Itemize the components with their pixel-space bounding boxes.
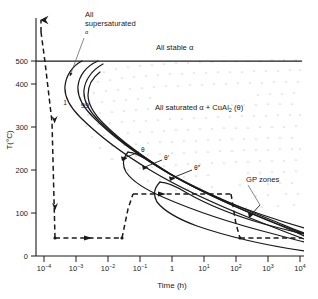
all-supersaturated-line3: α [85,29,89,35]
quench-arrowhead-mid [52,116,58,124]
y-tick-label-400: 400 [15,80,28,89]
ttt-plot-svg: 0 100 200 300 400 500 10−4 10−3 10−2 10−… [0,0,318,299]
x-tick-label-1e3: 103 [262,263,273,273]
c-curves-group [65,61,304,251]
theta-dprime-label: θ″ [194,164,201,171]
x-axis-ticks [44,256,300,262]
x-tick-label-1: 1 [170,264,174,273]
x-tick-label-1e-4: 10−4 [37,263,51,273]
x-tick-label-1e1: 101 [198,263,209,273]
y-tick-label-100: 100 [15,209,28,218]
all-supersaturated-line1: All [85,10,94,19]
x-tick-label-1e2: 102 [230,263,241,273]
annotation-theta-double-prime: θ″ [169,164,201,181]
heat-treatment-path-group [41,20,302,241]
all-supersaturated-leader [70,38,84,76]
x-tick-label-1e-2: 10−2 [101,263,115,273]
y-tick-label-500: 500 [15,57,28,66]
y-axis-ticks [31,61,36,256]
annotation-curve-1: 1 [63,99,67,106]
axes [31,18,304,262]
x-axis-title: Time (h) [157,281,187,290]
y-tick-label-300: 300 [15,123,28,132]
x-tick-labels: 10−4 10−3 10−2 10−1 1 101 102 103 104 [37,263,306,273]
annotation-all-supersaturated: All supersaturated α [70,10,136,76]
y-tick-labels: 0 100 200 300 400 500 [15,57,28,261]
ageing-hold-arrowhead [158,191,166,196]
x-tick-label-1e-1: 10−1 [133,263,147,273]
gp-zone-start-curve [155,182,304,251]
annotation-all-stable-alpha: All stable α [156,43,194,52]
quench-arrowhead-low [52,203,58,211]
ttt-diagram-figure: 0 100 200 300 400 500 10−4 10−3 10−2 10−… [0,0,318,299]
quench-segment [41,32,55,238]
y-tick-label-200: 200 [15,166,28,175]
theta-label: θ [141,146,145,153]
annotation-all-saturated: All saturated α + CuAl2 (θ) [155,103,244,113]
y-tick-label-0: 0 [24,252,28,261]
annotation-theta-prime: θ′ [142,154,170,170]
room-temp-hold-arrowhead [84,235,92,240]
heat-to-ageing-segment [122,194,133,238]
annotation-curve-99: 99 [81,101,89,110]
theta-prime-label: θ′ [164,154,170,161]
x-tick-label-1e4: 104 [294,263,305,273]
gp-zones-label: GP zones [246,175,279,184]
gp-zones-leader [248,185,260,205]
x-tick-label-1e-3: 10−3 [69,263,83,273]
y-axis-title: T(°C) [5,130,14,150]
all-supersaturated-line2: supersaturated [85,19,136,28]
theta-prime-finish-curve [88,72,304,236]
theta-dprime-leader [172,170,192,178]
